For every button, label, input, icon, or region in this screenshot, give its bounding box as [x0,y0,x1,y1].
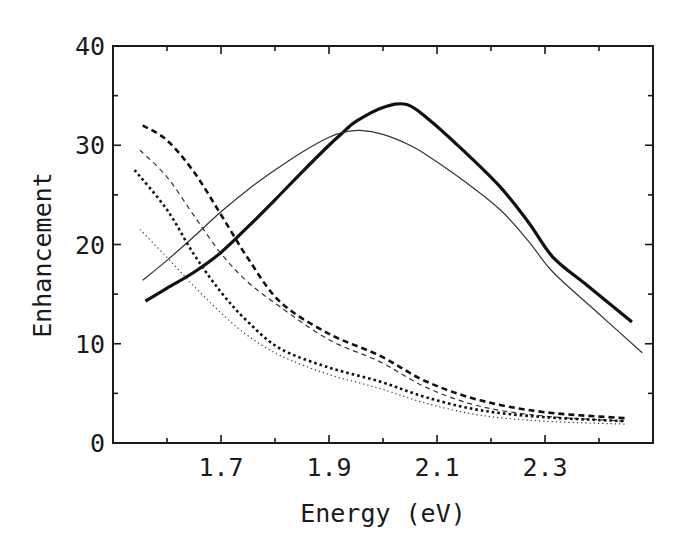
series-thin-solid [143,130,643,352]
y-tick-label: 30 [75,131,105,160]
y-tick-labels: 010203040 [75,32,105,458]
plot-frame [113,46,653,443]
series-thick-dotted [135,170,626,421]
series-thin-dashed [140,150,626,421]
x-axis-label: Energy (eV) [300,499,466,528]
x-tick-label: 1.7 [198,453,243,482]
y-tick-label: 10 [75,330,105,359]
x-tick-labels: 1.71.92.12.3 [198,453,567,482]
series-thick-dashed [143,125,626,418]
x-tick-label: 2.1 [414,453,459,482]
plot-series [135,104,643,424]
y-tick-label: 20 [75,231,105,260]
y-axis-label: Enhancement [28,172,57,338]
chart: 1.71.92.12.3 010203040 Energy (eV) Enhan… [0,0,687,556]
y-tick-label: 0 [90,429,105,458]
x-tick-label: 1.9 [306,453,351,482]
y-tick-label: 40 [75,32,105,61]
x-tick-label: 2.3 [522,453,567,482]
y-axis-ticks [113,46,653,443]
